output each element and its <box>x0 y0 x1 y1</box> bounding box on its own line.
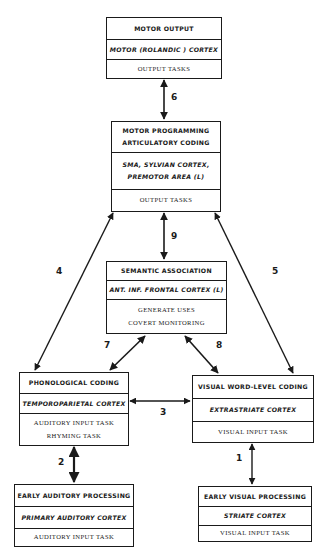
box-region: STRIATE CORTEX <box>224 510 286 522</box>
box-semantic-association: SEMANTIC ASSOCIATION ANT. INF. FRONTAL C… <box>106 261 227 334</box>
box-region-line-1: SMA, SYLVIAN CORTEX, <box>122 159 209 171</box>
box-region: EXTRASTRIATE CORTEX <box>210 404 297 416</box>
box-title: MOTOR OUTPUT <box>134 23 194 35</box>
connection-label-2: 2 <box>58 457 64 467</box>
connection-label-7: 7 <box>104 340 110 350</box>
box-title-line-1: MOTOR PROGRAMMING <box>123 125 210 137</box>
box-early-auditory-processing: EARLY AUDITORY PROCESSING PRIMARY AUDITO… <box>14 484 134 547</box>
connection-label-5: 5 <box>272 266 278 276</box>
box-title: EARLY AUDITORY PROCESSING <box>17 490 130 502</box>
box-title: PHONOLOGICAL CODING <box>29 377 119 389</box>
box-task: VISUAL INPUT TASK <box>218 426 288 439</box>
box-motor-programming: MOTOR PROGRAMMING ARTICULATORY CODING SM… <box>111 121 221 212</box>
box-task-1: GENERATE USES <box>138 304 195 317</box>
connection-label-8: 8 <box>216 340 222 350</box>
box-task: OUTPUT TASKS <box>138 63 191 76</box>
box-title: SEMANTIC ASSOCIATION <box>121 265 212 277</box>
box-title: VISUAL WORD-LEVEL CODING <box>198 381 308 393</box>
box-region: ANT. INF. FRONTAL CORTEX (L) <box>109 284 223 296</box>
box-region: MOTOR (ROLANDIC ) CORTEX <box>110 44 218 56</box>
box-visual-word-level-coding: VISUAL WORD-LEVEL CODING EXTRASTRIATE CO… <box>192 375 314 443</box>
box-task: VISUAL INPUT TASK <box>220 527 290 540</box>
connection-label-4: 4 <box>56 266 62 276</box>
connection-label-3: 3 <box>160 407 166 417</box>
box-phonological-coding: PHONOLOGICAL CODING TEMPOROPARIETAL CORT… <box>19 372 129 446</box>
connection-label-1: 1 <box>236 453 242 463</box>
arrow-4 <box>35 213 113 370</box>
box-region: PRIMARY AUDITORY CORTEX <box>21 512 126 524</box>
box-title: EARLY VISUAL PROCESSING <box>204 491 306 503</box>
arrow-7 <box>110 336 145 370</box>
box-region: TEMPOROPARIETAL CORTEX <box>22 398 125 410</box>
box-title-line-2: ARTICULATORY CODING <box>122 137 209 149</box>
box-task: OUTPUT TASKS <box>140 194 193 207</box>
box-task-2: COVERT MONITORING <box>128 317 205 330</box>
box-region-line-2: PREMOTOR AREA (L) <box>128 171 205 183</box>
arrow-8 <box>185 336 218 373</box>
connection-label-9: 9 <box>171 231 177 241</box>
box-early-visual-processing: EARLY VISUAL PROCESSING STRIATE CORTEX V… <box>198 486 312 542</box>
box-motor-output: MOTOR OUTPUT MOTOR (ROLANDIC ) CORTEX OU… <box>106 17 222 79</box>
box-task-2: RHYMING TASK <box>47 430 102 443</box>
box-task: AUDITORY INPUT TASK <box>34 531 114 544</box>
box-task-1: AUDITORY INPUT TASK <box>34 417 114 430</box>
connection-label-6: 6 <box>171 92 177 102</box>
